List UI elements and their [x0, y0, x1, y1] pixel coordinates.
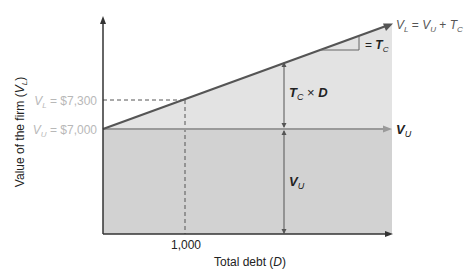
y-axis-arrow-icon — [100, 16, 106, 24]
tax-shield-label: TC × D — [289, 85, 328, 102]
unlevered-value-area — [103, 129, 392, 234]
vu-tick-label: VU = $7,000 — [33, 123, 98, 139]
x-tick-label: 1,000 — [171, 238, 201, 252]
mm-value-chart: VL = $7,300 VU = $7,000 1,000 Total debt… — [0, 0, 464, 278]
x-axis-label: Total debt (D) — [214, 255, 286, 269]
vu-line-label: VU — [396, 122, 412, 139]
y-axis-label: Value of the firm (VL) — [13, 77, 29, 187]
vl-tick-label: VL = $7,300 — [34, 94, 97, 110]
vl-line-label: VL = VU + TC — [396, 18, 463, 34]
